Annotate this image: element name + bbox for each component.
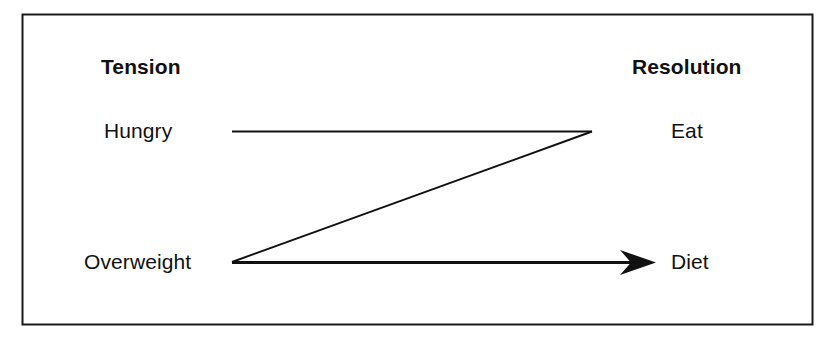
diagram-canvas xyxy=(0,0,835,349)
node-label-diet: Diet xyxy=(671,251,709,272)
column-header-tension: Tension xyxy=(101,56,181,77)
node-label-overweight: Overweight xyxy=(84,251,191,272)
column-header-resolution: Resolution xyxy=(632,56,742,77)
node-label-eat: Eat xyxy=(671,120,703,141)
figure-container: Tension Resolution Hungry Overweight Eat… xyxy=(0,0,835,349)
node-label-hungry: Hungry xyxy=(104,120,172,141)
